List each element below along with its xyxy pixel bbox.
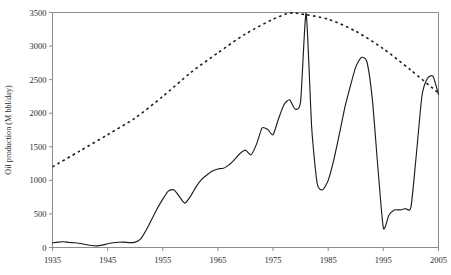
y-tick-label: 3000 (30, 41, 47, 51)
x-tick-label: 1935 (44, 255, 61, 265)
y-tick-label: 1000 (30, 175, 47, 185)
x-tick-label: 1945 (99, 255, 116, 265)
x-tick-label: 2005 (430, 255, 447, 265)
x-tick-label: 1995 (375, 255, 392, 265)
y-tick-label: 1500 (30, 142, 47, 152)
chart-figure: 0500100015002000250030003500 19351945195… (0, 0, 451, 275)
y-tick-label: 500 (34, 209, 47, 219)
y-tick-label: 3500 (30, 8, 47, 18)
x-tick-label: 1955 (154, 255, 171, 265)
oil-production-line-chart: 0500100015002000250030003500 19351945195… (0, 0, 451, 275)
chart-background (0, 0, 451, 275)
y-tick-label: 2500 (30, 75, 47, 85)
x-tick-label: 1975 (265, 255, 282, 265)
y-axis-title: Oil production (M bbl/day) (4, 85, 13, 175)
y-tick-label: 0 (42, 243, 46, 253)
x-tick-label: 1965 (209, 255, 226, 265)
y-tick-label: 2000 (30, 108, 47, 118)
x-tick-label: 1985 (320, 255, 337, 265)
